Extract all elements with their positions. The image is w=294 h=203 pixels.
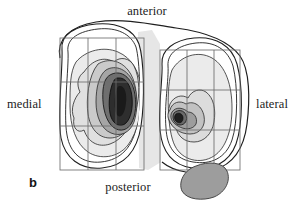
lateral-contour-level-5-peak [175,113,183,123]
orientation-label-anterior: anterior [0,5,294,18]
lateral-plateau-group [160,38,242,170]
tibial-plateau-contour-diagram [0,0,294,203]
orientation-label-medial: medial [7,98,42,111]
orientation-label-lateral: lateral [256,98,288,111]
medial-plateau-group [60,24,144,170]
figure-panel-b: anterior posterior medial lateral b [0,0,294,203]
panel-label: b [29,176,37,189]
orientation-label-posterior: posterior [0,181,256,194]
